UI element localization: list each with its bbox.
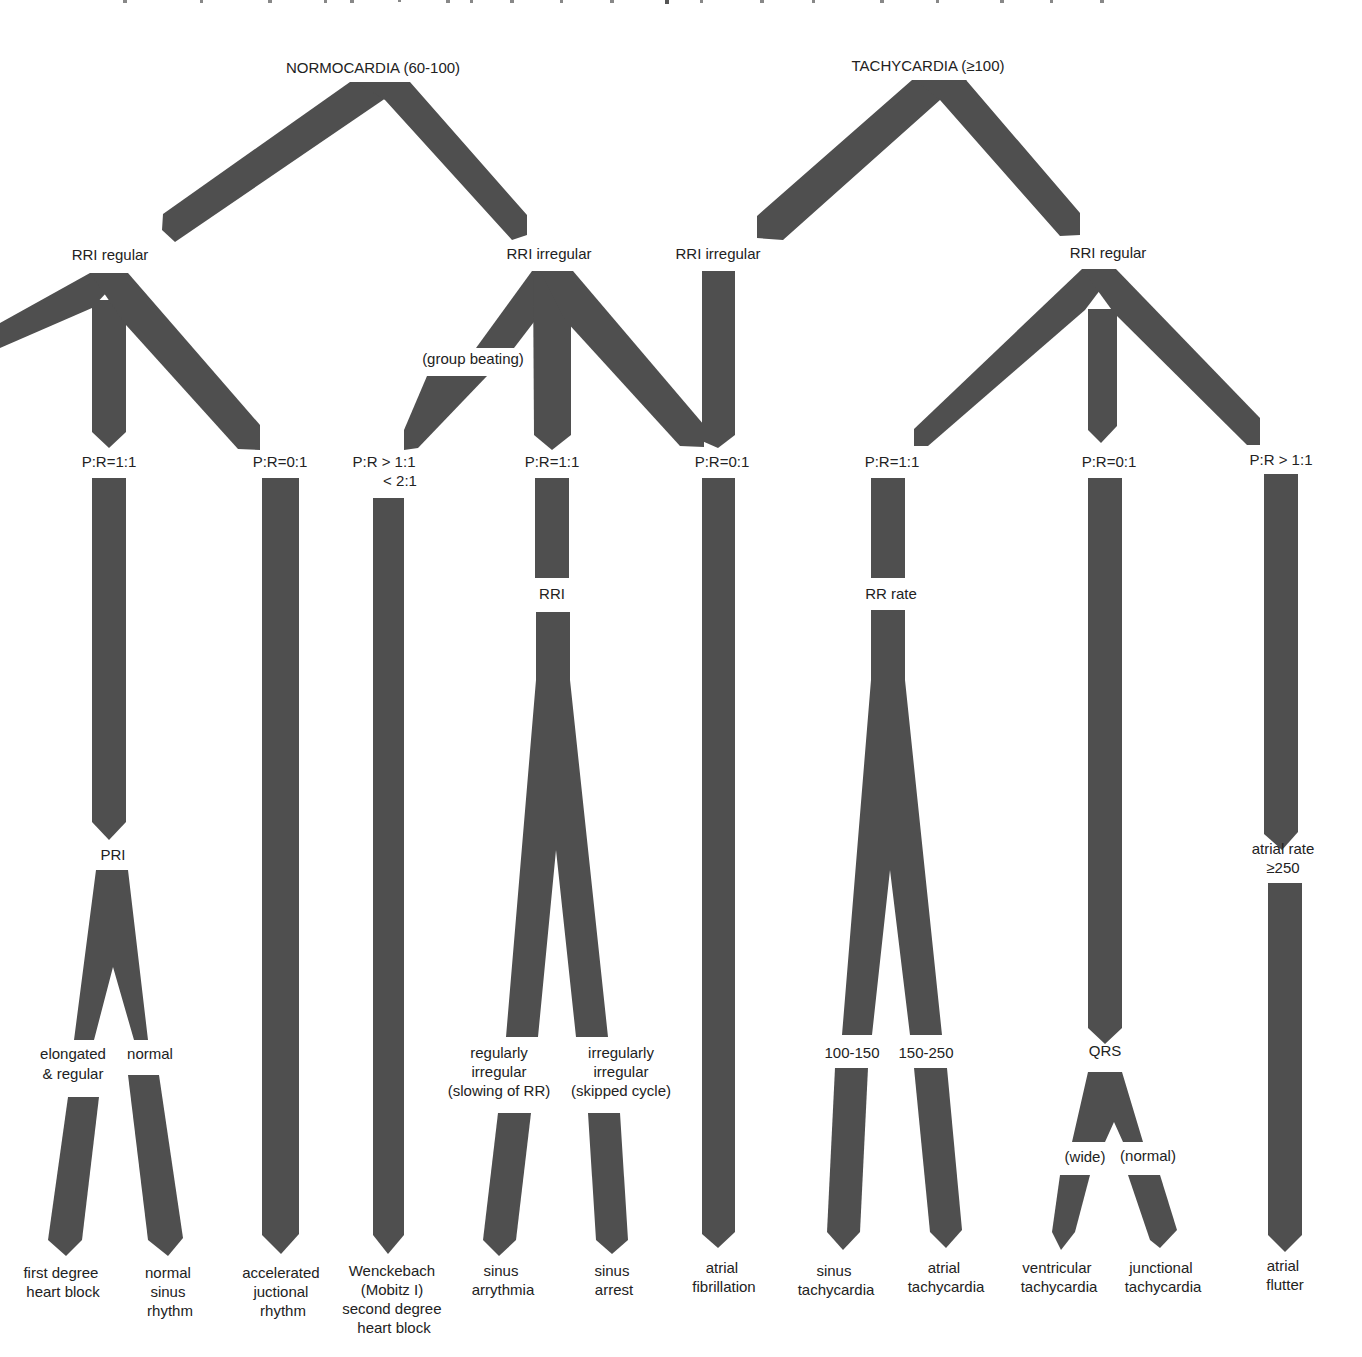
branch-rri-regular-to-pr-0-1-c [1088,309,1117,443]
label-tachy-rri-regular: RRI regular [1070,244,1147,261]
bar-pr-gt-c-to-atrial-rate [1264,474,1298,850]
outcome-wenckebach: Wenckebach (Mobitz I) second degree hear… [342,1262,445,1336]
bar-to-junctional-tachycardia [1128,1175,1177,1248]
label-atrial-rate-line1: atrial rate [1252,840,1315,857]
label-pr-0-1-b: P:R=0:1 [695,453,750,470]
outcome-ventricular-tachycardia: ventricular tachycardia [1021,1259,1098,1295]
label-irr-irr-line2: irregular [593,1063,648,1080]
branch-rri-regular-to-pr-1-1 [92,300,126,448]
label-rate-100-150: 100-150 [824,1044,879,1061]
root-labels: NORMOCARDIA (60-100) TACHYCARDIA (≥100) [286,57,1005,76]
label-reg-irr-line1: regularly [470,1044,528,1061]
label-rate-150-250: 150-250 [898,1044,953,1061]
bar-pri-split [74,870,148,1040]
label-qrs: QRS [1089,1042,1122,1059]
bar-elongated-to-first-degree [48,1097,99,1256]
branch-normo-to-rri-regular [162,82,406,242]
outcome-sinus-arrythmia: sinus arrythmia [472,1262,535,1298]
bar-to-atrial-tachycardia [914,1068,962,1248]
label-elongated-line2: & regular [43,1065,104,1082]
label-tachycardia: TACHYCARDIA (≥100) [852,57,1005,74]
label-pr-0-1-a: P:R=0:1 [253,453,308,470]
label-irr-irr-line1: irregularly [588,1044,654,1061]
label-pr-gt-line2: < 2:1 [383,472,417,489]
branch-normo-to-rri-irregular [356,82,527,240]
outcome-atrial-tachycardia: atrial tachycardia [908,1259,985,1295]
label-normo-rri-regular: RRI regular [72,246,149,263]
label-irr-irr-line3: (skipped cycle) [571,1082,671,1099]
label-rr-rate: RR rate [865,585,917,602]
bar-pr-0-1-to-accelerated-junctional [262,478,299,1254]
label-pri: PRI [100,846,125,863]
bar-pr-0-1-c-to-qrs [1088,478,1122,1044]
bar-pr-1-1-b-to-rri [535,478,569,578]
label-tachy-rri-irregular: RRI irregular [675,245,760,262]
branch-rri-regular-to-pr-1-1-c [914,269,1116,446]
bar-to-ventricular-tachycardia [1052,1175,1090,1250]
ecg-rhythm-decision-tree: NORMOCARDIA (60-100) TACHYCARDIA (≥100) … [0,0,1362,1357]
outcome-junctional-tachycardia: junctional tachycardia [1125,1259,1202,1295]
label-normal: normal [127,1045,173,1062]
label-pr-1-1-c: P:R=1:1 [865,453,920,470]
outcome-sinus-tachycardia: sinus tachycardia [798,1262,875,1298]
bar-pr-gt-to-wenckebach [373,498,404,1254]
cropped-header-text [110,0,1150,6]
outcome-normal-sinus-rhythm: normal sinus rhythm [145,1264,195,1319]
label-wide: (wide) [1065,1148,1106,1165]
bar-pr-1-1-to-pri [92,478,126,840]
label-pr-1-1-b: P:R=1:1 [525,453,580,470]
bar-normal-to-normal-sinus [128,1075,183,1256]
label-rri: RRI [539,585,565,602]
bar-to-sinus-tachycardia [827,1068,868,1250]
label-pr-0-1-c: P:R=0:1 [1082,453,1137,470]
outcome-labels: first degree heart block normal sinus rh… [23,1257,1303,1336]
branch-group-beating-to-pr-gt [404,376,487,450]
outcome-atrial-fibrillation: atrial fibrillation [692,1259,755,1295]
outcome-first-degree-heart-block: first degree heart block [23,1264,102,1300]
label-pr-gt-c: P:R > 1:1 [1250,451,1313,468]
bar-rr-rate-split [842,610,942,1035]
label-elongated-line1: elongated [40,1045,106,1062]
branch-tachy-to-rri-regular [915,80,1080,236]
label-normocardia: NORMOCARDIA (60-100) [286,59,460,76]
bar-atrial-rate-to-flutter [1268,883,1302,1252]
outcome-sinus-arrest: sinus arrest [594,1262,634,1298]
outcome-accelerated-junctional-rhythm: accelerated juctional rhythm [242,1264,324,1319]
label-group-beating: (group beating) [422,350,524,367]
label-normal-qrs: (normal) [1120,1147,1176,1164]
bar-qrs-split [1072,1072,1143,1142]
label-pr-1-1-a: P:R=1:1 [82,453,137,470]
label-atrial-rate-line2: ≥250 [1266,859,1299,876]
label-reg-irr-line2: irregular [471,1063,526,1080]
branch-tachy-rri-irregular-to-pr-0-1-b [702,271,735,448]
label-reg-irr-line3: (slowing of RR) [448,1082,551,1099]
outcome-atrial-flutter: atrial flutter [1266,1257,1304,1293]
bar-pr-0-1-b-to-atrial-fibrillation [702,478,735,1248]
bar-to-sinus-arrest [588,1113,628,1254]
bar-rri-split [506,612,608,1037]
label-pr-gt-line1: P:R > 1:1 [353,453,416,470]
bar-to-sinus-arrythmia [483,1113,531,1256]
branch-tachy-to-rri-irregular [757,80,967,240]
label-normo-rri-irregular: RRI irregular [506,245,591,262]
bar-pr-1-1-c-to-rr-rate [871,478,905,578]
